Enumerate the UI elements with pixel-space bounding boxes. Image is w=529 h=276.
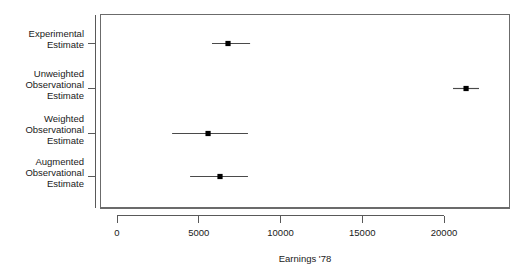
- estimate-row: [212, 41, 250, 46]
- y-label-augmented-line-3: Estimate: [47, 178, 84, 189]
- y-label-unweighted-line-3: Estimate: [47, 90, 84, 101]
- y-label-unweighted-line-1: Unweighted: [34, 68, 84, 79]
- y-label-experimental-line-2: Estimate: [47, 39, 84, 50]
- y-axis-labels: Experimental Estimate Unweighted Observa…: [25, 28, 84, 189]
- dot-and-whisker-plot: Experimental Estimate Unweighted Observa…: [0, 0, 529, 276]
- point-estimate-marker: [463, 86, 468, 91]
- plot-frame: [101, 15, 510, 209]
- x-tick-labels: 05000100001500020000: [114, 227, 457, 238]
- x-tick-marks: [117, 216, 444, 223]
- x-tick-label-0: 0: [114, 227, 119, 238]
- x-tick-label-20000: 20000: [431, 227, 457, 238]
- x-tick-label-15000: 15000: [349, 227, 375, 238]
- estimate-row: [172, 131, 248, 136]
- data-series: [172, 41, 479, 179]
- y-label-experimental-line-1: Experimental: [29, 28, 84, 39]
- y-label-augmented-line-2: Observational: [25, 167, 84, 178]
- x-tick-label-10000: 10000: [267, 227, 293, 238]
- estimate-row: [453, 86, 479, 91]
- point-estimate-marker: [217, 174, 222, 179]
- chart-canvas: Experimental Estimate Unweighted Observa…: [0, 0, 529, 276]
- x-tick-label-5000: 5000: [188, 227, 209, 238]
- point-estimate-marker: [225, 41, 230, 46]
- point-estimate-marker: [205, 131, 210, 136]
- y-label-weighted-line-3: Estimate: [47, 135, 84, 146]
- y-label-unweighted-line-2: Observational: [25, 79, 84, 90]
- y-label-weighted-line-2: Observational: [25, 124, 84, 135]
- x-axis: 05000100001500020000: [114, 216, 457, 239]
- y-axis: [88, 15, 96, 209]
- y-label-weighted-line-1: Weighted: [44, 113, 84, 124]
- x-axis-title: Earnings '78: [279, 253, 332, 264]
- estimate-row: [190, 174, 248, 179]
- y-label-augmented-line-1: Augmented: [35, 156, 84, 167]
